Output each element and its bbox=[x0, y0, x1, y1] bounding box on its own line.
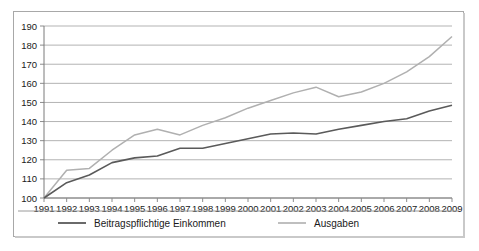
line-chart: 100110120130140150160170180190 199119921… bbox=[14, 12, 463, 236]
legend-label-beitragspflichtige-einkommen: Beitragspflichtige Einkommen bbox=[94, 218, 226, 229]
x-axis-tick-label: 1997 bbox=[169, 203, 190, 214]
series-line-beitragspflichtige-einkommen bbox=[44, 105, 452, 198]
x-axis-tick-label: 2006 bbox=[373, 203, 394, 214]
chart-frame: 100110120130140150160170180190 199119921… bbox=[13, 11, 464, 237]
y-axis-tick-label: 160 bbox=[21, 78, 37, 89]
x-axis-tick-label: 1995 bbox=[124, 203, 145, 214]
x-axis-tick-label: 2005 bbox=[351, 203, 372, 214]
x-axis-tick-label: 1994 bbox=[101, 203, 122, 214]
x-axis-tick-label: 2004 bbox=[328, 203, 349, 214]
x-axis-ticks bbox=[44, 198, 452, 202]
y-axis-tick-label: 110 bbox=[22, 173, 37, 184]
y-axis-tick-label: 180 bbox=[21, 40, 37, 51]
y-axis-tick-label: 190 bbox=[21, 21, 37, 32]
x-axis-tick-label: 2007 bbox=[396, 203, 417, 214]
y-axis-tick-labels: 100110120130140150160170180190 bbox=[21, 21, 37, 204]
y-axis-tick-label: 130 bbox=[21, 135, 37, 146]
y-axis-tick-label: 140 bbox=[21, 116, 37, 127]
x-axis-tick-label: 1999 bbox=[215, 203, 236, 214]
x-axis-tick-label: 1998 bbox=[192, 203, 213, 214]
x-axis-tick-labels: 1991199219931994199519961997199819992000… bbox=[33, 203, 462, 214]
y-axis-tick-label: 170 bbox=[21, 59, 37, 70]
y-axis-tick-label: 150 bbox=[21, 97, 37, 108]
x-axis-tick-label: 1993 bbox=[79, 203, 100, 214]
y-axis-gridlines bbox=[40, 26, 452, 198]
series-line-ausgaben bbox=[44, 37, 452, 198]
y-axis-tick-label: 100 bbox=[21, 193, 37, 204]
x-axis-tick-label: 1992 bbox=[56, 203, 77, 214]
x-axis-tick-label: 2000 bbox=[237, 203, 258, 214]
x-axis-tick-label: 2003 bbox=[305, 203, 326, 214]
x-axis-tick-label: 2002 bbox=[283, 203, 304, 214]
x-axis-tick-label: 1991 bbox=[33, 203, 54, 214]
y-axis-tick-label: 120 bbox=[21, 154, 37, 165]
legend-label-ausgaben: Ausgaben bbox=[314, 218, 359, 229]
x-axis-tick-label: 2001 bbox=[260, 203, 281, 214]
x-axis-tick-label: 2009 bbox=[441, 203, 462, 214]
x-axis-tick-label: 2008 bbox=[419, 203, 440, 214]
x-axis-tick-label: 1996 bbox=[147, 203, 168, 214]
